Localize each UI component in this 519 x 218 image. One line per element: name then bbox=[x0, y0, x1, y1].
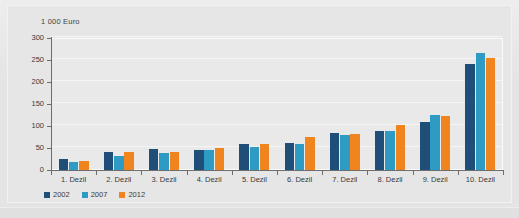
chart-screenshot: 1 000 Euro 050100150200250300 1. Dezil2.… bbox=[0, 0, 519, 218]
gridline bbox=[51, 36, 502, 37]
bar bbox=[104, 152, 114, 170]
y-axis-tick-label: 150 bbox=[18, 100, 44, 108]
y-axis-tick-label: 250 bbox=[18, 56, 44, 64]
chart-card: 1 000 Euro 050100150200250300 1. Dezil2.… bbox=[7, 5, 512, 203]
gridline bbox=[51, 102, 502, 103]
x-axis-tick bbox=[413, 170, 414, 175]
x-axis-tick-label: 5. Dezil bbox=[232, 176, 277, 184]
legend-item[interactable]: 2012 bbox=[119, 191, 145, 199]
bar bbox=[420, 122, 430, 170]
bar bbox=[465, 64, 475, 170]
x-axis-tick bbox=[322, 170, 323, 175]
x-axis-tick bbox=[458, 170, 459, 175]
bar bbox=[114, 156, 124, 170]
bar bbox=[239, 144, 249, 170]
x-axis-tick bbox=[51, 170, 52, 175]
legend-swatch-icon bbox=[44, 192, 50, 198]
bar bbox=[441, 116, 451, 170]
gridline bbox=[51, 80, 502, 81]
y-axis-tick-label: 100 bbox=[18, 122, 44, 130]
bar bbox=[385, 131, 395, 170]
legend-swatch-icon bbox=[82, 192, 88, 198]
x-axis-tick bbox=[367, 170, 368, 175]
x-axis-tick-label: 3. Dezil bbox=[141, 176, 186, 184]
footer-strip bbox=[0, 207, 519, 218]
x-axis-tick bbox=[96, 170, 97, 175]
x-axis-tick-label: 9. Dezil bbox=[413, 176, 458, 184]
bar bbox=[340, 135, 350, 170]
y-axis-tick-label: 0 bbox=[18, 166, 44, 174]
bar bbox=[350, 134, 360, 170]
bar bbox=[204, 150, 214, 170]
bar bbox=[476, 53, 486, 170]
x-axis-tick bbox=[232, 170, 233, 175]
x-axis-tick bbox=[187, 170, 188, 175]
y-axis-tick-label: 50 bbox=[18, 144, 44, 152]
legend-label: 2007 bbox=[91, 191, 108, 199]
bar bbox=[486, 58, 496, 170]
bar bbox=[194, 150, 204, 170]
bar bbox=[69, 162, 79, 170]
y-axis-tick bbox=[47, 104, 52, 105]
bar bbox=[430, 115, 440, 170]
legend-item[interactable]: 2002 bbox=[44, 191, 70, 199]
bar bbox=[295, 144, 305, 170]
y-axis-tick-label: 200 bbox=[18, 78, 44, 86]
y-axis-tick-label: 300 bbox=[18, 34, 44, 42]
y-axis-unit-label: 1 000 Euro bbox=[41, 17, 80, 26]
bar bbox=[260, 144, 270, 170]
legend-label: 2002 bbox=[53, 191, 70, 199]
x-axis-tick-label: 1. Dezil bbox=[51, 176, 96, 184]
y-axis-tick bbox=[47, 126, 52, 127]
x-axis-tick bbox=[141, 170, 142, 175]
bar bbox=[250, 147, 260, 170]
x-axis-tick bbox=[503, 170, 504, 175]
bar bbox=[305, 137, 315, 170]
bar bbox=[159, 153, 169, 170]
y-axis-labels: 050100150200250300 bbox=[16, 6, 44, 202]
x-axis-tick-label: 2. Dezil bbox=[96, 176, 141, 184]
y-axis-tick bbox=[47, 38, 52, 39]
bar bbox=[330, 133, 340, 170]
y-axis-tick bbox=[47, 82, 52, 83]
legend-item[interactable]: 2007 bbox=[82, 191, 108, 199]
y-axis-tick bbox=[47, 148, 52, 149]
bar bbox=[396, 125, 406, 170]
y-axis-tick bbox=[47, 60, 52, 61]
bar bbox=[124, 152, 134, 170]
bar bbox=[285, 143, 295, 170]
legend-label: 2012 bbox=[128, 191, 145, 199]
gridline bbox=[51, 58, 502, 59]
bar bbox=[170, 152, 180, 170]
chart-legend: 200220072012 bbox=[44, 191, 152, 199]
bar bbox=[375, 131, 385, 170]
legend-swatch-icon bbox=[119, 192, 125, 198]
bar bbox=[215, 148, 225, 170]
bar bbox=[79, 161, 89, 170]
x-axis-tick-label: 6. Dezil bbox=[277, 176, 322, 184]
bar bbox=[59, 159, 69, 170]
x-axis-tick bbox=[277, 170, 278, 175]
x-axis-tick-label: 8. Dezil bbox=[367, 176, 412, 184]
x-axis-tick-label: 7. Dezil bbox=[322, 176, 367, 184]
x-axis-tick-label: 4. Dezil bbox=[187, 176, 232, 184]
x-axis-tick-label: 10. Dezil bbox=[458, 176, 503, 184]
bar bbox=[149, 149, 159, 170]
